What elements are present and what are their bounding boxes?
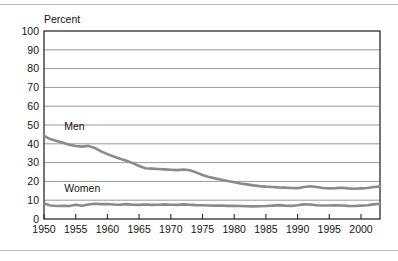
- series-label-men: Men: [64, 120, 85, 132]
- y-tick-label: 20: [27, 175, 39, 187]
- chart-page: Percent 0102030405060708090100 195019551…: [0, 0, 398, 261]
- x-tick-label: 1950: [32, 223, 56, 235]
- series-line-women: [44, 204, 380, 207]
- x-tick-label: 1965: [127, 223, 151, 235]
- series-label-women: Women: [64, 182, 100, 194]
- x-tick-label: 1960: [96, 223, 120, 235]
- x-tick-label: 1975: [191, 223, 215, 235]
- x-axis-tick-marks: [44, 214, 361, 219]
- x-tick-label: 1980: [223, 223, 247, 235]
- y-tick-label: 70: [27, 81, 39, 93]
- x-axis-tick-labels: 1950195519601965197019751980198519901995…: [32, 223, 372, 235]
- y-tick-label: 90: [27, 44, 39, 56]
- y-tick-label: 40: [27, 138, 39, 150]
- y-tick-label: 60: [27, 100, 39, 112]
- x-tick-label: 2000: [349, 223, 373, 235]
- x-tick-label: 1955: [64, 223, 88, 235]
- x-tick-label: 1990: [286, 223, 310, 235]
- series-annotations: MenWomen: [64, 120, 100, 194]
- y-tick-label: 10: [27, 194, 39, 206]
- y-tick-label: 50: [27, 119, 39, 131]
- y-tick-label: 100: [21, 25, 39, 37]
- y-tick-label: 80: [27, 62, 39, 74]
- y-axis-tick-labels: 0102030405060708090100: [21, 25, 39, 225]
- y-tick-label: 30: [27, 156, 39, 168]
- line-chart: 0102030405060708090100 19501955196019651…: [0, 0, 398, 261]
- x-tick-label: 1970: [159, 223, 183, 235]
- x-tick-label: 1995: [318, 223, 342, 235]
- x-tick-label: 1985: [254, 223, 278, 235]
- data-series: [44, 136, 380, 207]
